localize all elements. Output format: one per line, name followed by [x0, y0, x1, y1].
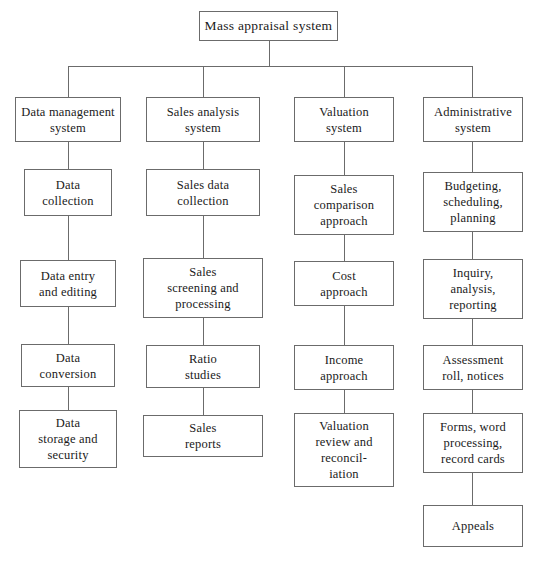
node-administrative-1: Budgeting, scheduling, planning: [423, 172, 523, 232]
mass-appraisal-system-diagram: Mass appraisal systemData management sys…: [0, 0, 538, 566]
node-data-management-1: Data collection: [24, 169, 112, 216]
node-data-management-4: Data storage and security: [19, 410, 117, 468]
root-node: Mass appraisal system: [199, 11, 338, 41]
node-valuation-1: Sales comparison approach: [294, 175, 394, 235]
node-valuation-0: Valuation system: [294, 97, 394, 142]
node-sales-analysis-2: Sales screening and processing: [143, 258, 263, 318]
node-data-management-0: Data management system: [15, 97, 121, 142]
node-data-management-2: Data entry and editing: [20, 260, 116, 307]
node-sales-analysis-0: Sales analysis system: [146, 97, 260, 142]
node-administrative-4: Forms, word processing, record cards: [423, 413, 523, 473]
node-administrative-2: Inquiry, analysis, reporting: [423, 259, 523, 319]
node-administrative-0: Administrative system: [423, 97, 523, 142]
node-sales-analysis-4: Sales reports: [143, 415, 263, 457]
node-sales-analysis-3: Ratio studies: [146, 345, 260, 388]
node-administrative-5: Appeals: [423, 505, 523, 547]
node-sales-analysis-1: Sales data collection: [146, 169, 260, 216]
node-administrative-3: Assessment roll, notices: [423, 345, 523, 390]
node-data-management-3: Data conversion: [21, 344, 115, 387]
node-valuation-3: Income approach: [294, 345, 394, 390]
node-valuation-2: Cost approach: [294, 261, 394, 306]
node-valuation-4: Valuation review and reconcil- iation: [294, 413, 394, 487]
